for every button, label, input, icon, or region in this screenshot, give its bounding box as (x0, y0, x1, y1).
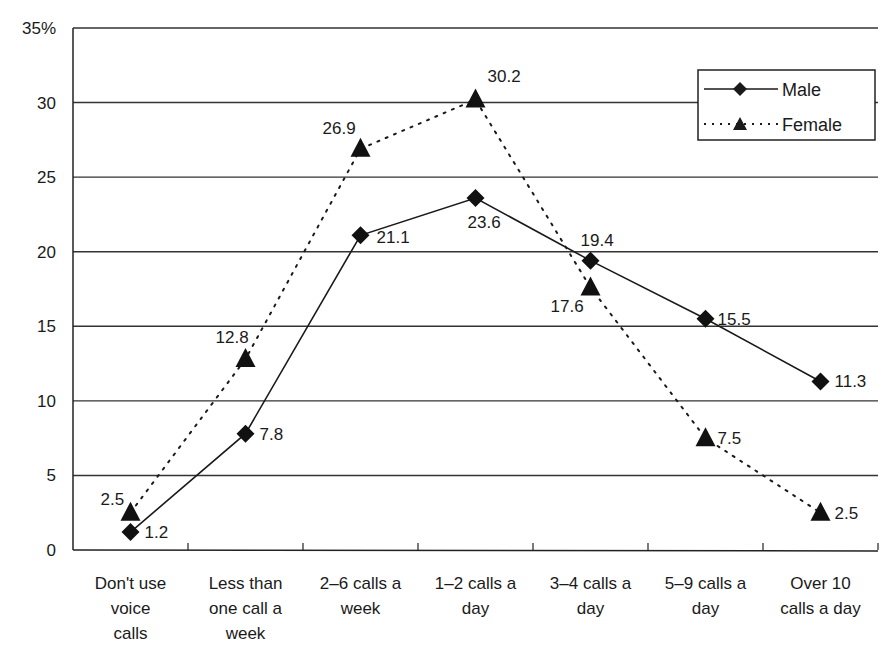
y-tick-label: 0 (47, 541, 56, 560)
y-tick-label: 20 (37, 243, 56, 262)
female-data-label: 2.5 (835, 504, 859, 523)
male-line (131, 198, 821, 532)
x-axis (73, 550, 878, 551)
diamond-marker-icon (582, 252, 600, 270)
triangle-marker-icon (351, 138, 371, 157)
x-category-label: 3–4 calls aday (550, 574, 632, 618)
diamond-marker-icon (352, 226, 370, 244)
y-tick-label: 15 (37, 317, 56, 336)
triangle-marker-icon (466, 89, 486, 108)
legend-male-label: Male (782, 80, 821, 100)
diamond-marker-icon (697, 310, 715, 328)
triangle-marker-icon (581, 277, 601, 296)
male-data-label: 7.8 (260, 425, 284, 444)
y-axis-ticks: 05101520253035% (22, 19, 56, 560)
female-data-label: 30.2 (488, 67, 521, 86)
female-data-label: 17.6 (551, 297, 584, 316)
x-category-label: Don't usevoicecalls (95, 574, 166, 643)
y-tick-label: 10 (37, 392, 56, 411)
male-data-label: 23.6 (468, 213, 501, 232)
x-category-label: Over 10calls a day (780, 574, 861, 618)
female-data-label: 7.5 (718, 429, 742, 448)
female-line (131, 100, 821, 513)
male-data-label: 15.5 (718, 310, 751, 329)
legend-female-label: Female (782, 115, 842, 135)
male-data-label: 1.2 (145, 523, 169, 542)
x-category-label: Less thanone call aweek (209, 574, 283, 643)
male-data-label: 19.4 (581, 231, 614, 250)
line-chart: 05101520253035% Don't usevoicecallsLess … (0, 0, 896, 672)
y-tick-label: 35% (22, 19, 56, 38)
female-data-label: 2.5 (101, 490, 125, 509)
y-tick-label: 25 (37, 168, 56, 187)
triangle-marker-icon (236, 348, 256, 367)
x-axis-categories: Don't usevoicecallsLess thanone call awe… (95, 574, 861, 643)
male-data-label: 21.1 (377, 228, 410, 247)
x-category-label: 1–2 calls aday (435, 574, 517, 618)
x-category-label: 5–9 calls aday (665, 574, 747, 618)
female-data-label: 12.8 (216, 328, 249, 347)
female-data-label: 26.9 (323, 119, 356, 138)
legend: Male Female (698, 70, 875, 140)
male-data-label: 11.3 (835, 372, 867, 391)
triangle-marker-icon (811, 502, 831, 521)
y-tick-label: 5 (47, 466, 56, 485)
x-category-label: 2–6 calls aweek (320, 574, 402, 618)
diamond-marker-icon (467, 189, 485, 207)
diamond-marker-icon (812, 372, 830, 390)
y-tick-label: 30 (37, 94, 56, 113)
